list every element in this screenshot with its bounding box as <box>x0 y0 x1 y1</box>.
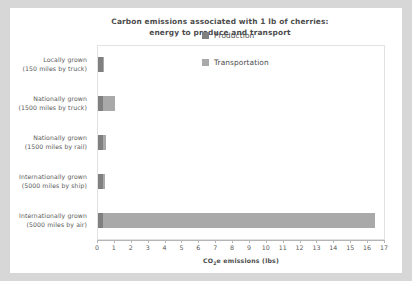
x-tick <box>114 240 115 243</box>
bar-row: Nationally grown(1500 miles by rail) <box>10 123 402 162</box>
x-tick <box>266 240 267 243</box>
x-axis-label: CO2e emissions (lbs) <box>97 257 385 266</box>
bar-segment-transportation[interactable] <box>103 57 104 72</box>
stacked-bar[interactable] <box>98 135 106 150</box>
x-tick <box>181 240 182 243</box>
stacked-bar[interactable] <box>98 96 115 111</box>
stacked-bar[interactable] <box>98 213 375 228</box>
x-tick <box>148 240 149 243</box>
legend-item-production: Production <box>202 29 269 42</box>
x-axis-label-main: CO <box>203 257 213 264</box>
category-label: Internationally grown(5000 miles by ship… <box>10 162 92 201</box>
x-tick <box>232 240 233 243</box>
x-tick <box>300 240 301 243</box>
x-axis-line <box>97 240 385 241</box>
stacked-bar[interactable] <box>98 57 104 72</box>
chart-title-line1: Carbon emissions associated with 1 lb of… <box>111 17 328 26</box>
bar-segment-transportation[interactable] <box>103 213 375 228</box>
chart-figure: Carbon emissions associated with 1 lb of… <box>10 8 402 273</box>
category-label-line2: (1500 miles by rail) <box>25 143 87 151</box>
bar-container <box>98 45 385 84</box>
x-tick-label: 17 <box>374 244 394 251</box>
x-tick <box>283 240 284 243</box>
x-tick <box>215 240 216 243</box>
bar-row: Internationally grown(5000 miles by ship… <box>10 162 402 201</box>
legend-label-production: Production <box>214 31 254 40</box>
category-label: Locally grown(150 miles by truck) <box>10 45 92 84</box>
x-tick <box>97 240 98 243</box>
bar-segment-transportation[interactable] <box>103 174 105 189</box>
x-tick <box>333 240 334 243</box>
category-label: Nationally grown(1500 miles by rail) <box>10 123 92 162</box>
bar-container <box>98 162 385 201</box>
x-tick <box>249 240 250 243</box>
bar-container <box>98 201 385 240</box>
page-background: Carbon emissions associated with 1 lb of… <box>0 0 412 281</box>
category-label: Internationally grown(5000 miles by air) <box>10 201 92 240</box>
chart-card: Carbon emissions associated with 1 lb of… <box>10 8 402 273</box>
category-label-line1: Nationally grown <box>33 95 87 103</box>
category-label-line2: (150 miles by truck) <box>22 65 87 73</box>
x-tick <box>131 240 132 243</box>
category-label-line2: (1500 miles by truck) <box>18 104 87 112</box>
category-label-line1: Nationally grown <box>33 134 87 142</box>
bar-container <box>98 123 385 162</box>
x-tick <box>367 240 368 243</box>
x-axis-label-rest: e emissions (lbs) <box>217 257 279 264</box>
x-tick <box>198 240 199 243</box>
x-tick <box>384 240 385 243</box>
category-label-line1: Internationally grown <box>19 212 87 220</box>
bar-rows: Locally grown(150 miles by truck)Nationa… <box>10 45 402 240</box>
x-tick <box>165 240 166 243</box>
stacked-bar[interactable] <box>98 174 105 189</box>
legend-swatch-production <box>202 32 209 39</box>
category-label: Nationally grown(1500 miles by truck) <box>10 84 92 123</box>
category-label-line2: (5000 miles by ship) <box>22 182 87 190</box>
x-tick <box>350 240 351 243</box>
bar-row: Locally grown(150 miles by truck) <box>10 45 402 84</box>
x-tick <box>316 240 317 243</box>
category-label-line1: Internationally grown <box>19 173 87 181</box>
bar-segment-transportation[interactable] <box>103 135 106 150</box>
bar-segment-transportation[interactable] <box>103 96 115 111</box>
category-label-line2: (5000 miles by air) <box>26 221 87 229</box>
bar-container <box>98 84 385 123</box>
category-label-line1: Locally grown <box>43 56 87 64</box>
bar-row: Nationally grown(1500 miles by truck) <box>10 84 402 123</box>
bar-row: Internationally grown(5000 miles by air) <box>10 201 402 240</box>
